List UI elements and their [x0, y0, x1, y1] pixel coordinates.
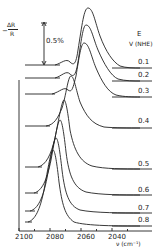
volt-label-0.5: 0.5: [138, 160, 149, 168]
x-tick-2100: 2100: [15, 233, 33, 241]
volt-label-0.1: 0.1: [138, 58, 149, 66]
volt-label-0.3: 0.3: [138, 87, 149, 95]
volt-label-0.8: 0.8: [138, 216, 149, 224]
curve-0.1: [55, 8, 140, 68]
legend-subtitle: V (NHE): [129, 40, 152, 48]
volt-label-0.6: 0.6: [138, 186, 149, 194]
x-tick-2080: 2080: [46, 233, 64, 241]
curve-0.2: [55, 25, 140, 81]
ylabel-denominator: R: [10, 30, 14, 38]
curve-0.5: [38, 100, 140, 169]
scale-bar-label: 0.5%: [46, 37, 64, 45]
curve-0.6: [34, 120, 140, 195]
ylabel-numerator: ΔR: [7, 21, 15, 29]
volt-label-0.4: 0.4: [138, 117, 149, 125]
x-axis-label: ν (cm⁻¹): [116, 240, 141, 248]
legend-title: E: [137, 30, 141, 38]
volt-label-0.2: 0.2: [138, 71, 149, 79]
x-tick-2060: 2060: [77, 233, 95, 241]
volt-label-0.7: 0.7: [138, 204, 149, 212]
curve-0.3: [52, 43, 140, 97]
